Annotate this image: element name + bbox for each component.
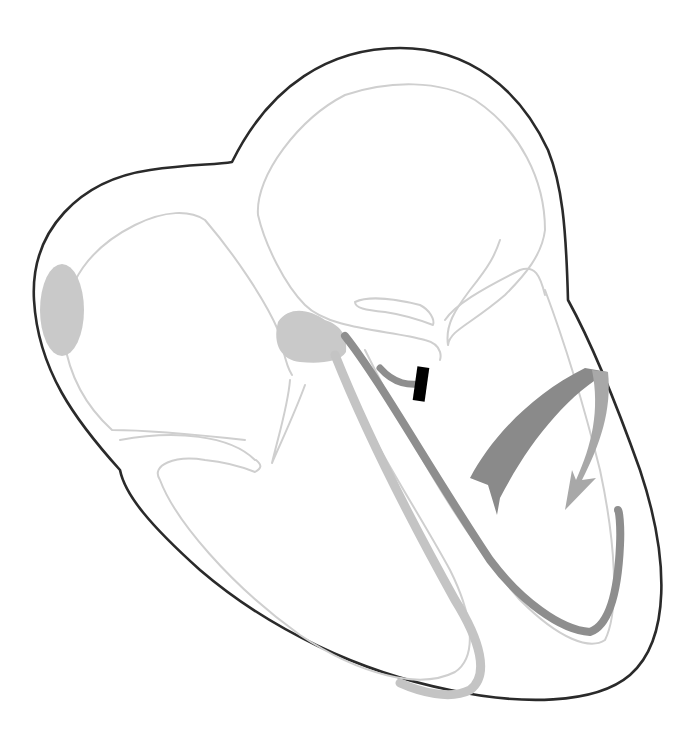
- septum-top-flap: [355, 299, 433, 325]
- right-bundle-branch: [335, 355, 481, 695]
- right-atrium: [64, 213, 292, 440]
- block-marker: [413, 366, 430, 401]
- heart-conduction-diagram: [0, 0, 682, 745]
- tricuspid-flap: [272, 380, 305, 463]
- mitral-flap: [445, 269, 545, 320]
- curved-arrow-body: [470, 368, 608, 515]
- sa-node: [40, 264, 84, 356]
- bundle-offshoot: [380, 368, 420, 384]
